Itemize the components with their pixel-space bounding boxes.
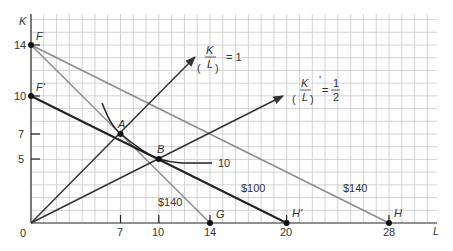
cost-label-140-fh: $140	[343, 182, 367, 194]
point-f	[28, 42, 34, 48]
svg-text:(: (	[292, 93, 296, 105]
point-f-prime	[28, 93, 34, 99]
label-b: B	[157, 143, 164, 155]
svg-text:(: (	[197, 62, 201, 74]
label-g: G	[216, 208, 225, 220]
svg-text:): )	[215, 62, 219, 74]
xtick-14: 14	[204, 226, 216, 238]
xtick-7: 7	[117, 226, 123, 238]
y-ticks	[31, 45, 40, 159]
point-a	[118, 131, 124, 137]
svg-text:): )	[310, 93, 314, 105]
label-f-prime: F'	[36, 81, 46, 93]
label-h-prime: H'	[292, 207, 303, 219]
svg-text:L: L	[207, 58, 213, 70]
svg-text:K: K	[206, 44, 214, 56]
cost-label-140-fg: $140	[158, 196, 182, 208]
label-a: A	[117, 118, 125, 130]
ytick-7: 7	[18, 128, 24, 140]
point-b	[156, 156, 162, 162]
label-h: H	[394, 207, 402, 219]
xtick-20: 20	[280, 226, 292, 238]
label-f: F	[36, 30, 44, 42]
isoquant-label: 10	[218, 157, 230, 169]
origin-label: 0	[20, 227, 26, 239]
svg-text:1: 1	[333, 77, 339, 89]
svg-text:= 1: = 1	[226, 51, 242, 63]
ytick-10: 10	[14, 90, 26, 102]
cost-label-100: $100	[241, 182, 265, 194]
y-axis-label: K	[19, 15, 27, 27]
xtick-10: 10	[152, 226, 164, 238]
ray1-label: ( K L ) = 1	[197, 44, 242, 74]
svg-text:L: L	[302, 91, 308, 103]
ytick-5: 5	[18, 153, 24, 165]
svg-text:2: 2	[333, 91, 339, 103]
svg-text:': '	[319, 74, 321, 86]
xtick-28: 28	[383, 226, 395, 238]
svg-text:K: K	[301, 77, 309, 89]
ytick-14: 14	[14, 39, 26, 51]
isocost-isoquant-diagram: K L 0 14 10 7 5 7 10 14 20 28 F F' A B G…	[0, 0, 453, 251]
x-axis-label: L	[433, 225, 439, 237]
x-ticks	[121, 215, 390, 223]
svg-text:=: =	[322, 84, 328, 96]
